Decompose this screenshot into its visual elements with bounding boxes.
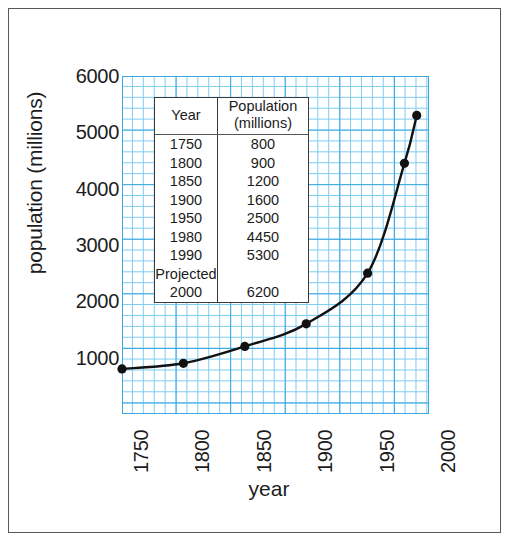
data-point-marker	[400, 159, 409, 168]
table-cell-year: 1850	[155, 172, 217, 191]
data-point-marker	[117, 364, 126, 373]
y-tick-label: 3000	[49, 234, 119, 257]
table-cell-year: 1900	[155, 191, 217, 210]
table-row: 18501200	[155, 172, 308, 191]
y-tick-label: 1000	[49, 346, 119, 369]
projected-label: Projected	[155, 265, 217, 284]
data-point-marker	[302, 319, 311, 328]
table-row-projected-label: Projected	[155, 265, 308, 284]
plot-area: Year Population (millions) 1750800180090…	[122, 76, 429, 414]
data-point-marker	[240, 342, 249, 351]
table-row: 19001600	[155, 191, 308, 210]
x-axis-tick-labels: 175018001850190019502000	[9, 415, 500, 485]
y-tick-label: 4000	[49, 177, 119, 200]
figure-frame: population (millions) 100020003000400050…	[8, 8, 501, 533]
x-tick-label: 1900	[314, 430, 337, 473]
table-cell-population: 6200	[217, 283, 308, 302]
table-cell-population: 1200	[217, 172, 308, 191]
table-cell-population: 5300	[217, 246, 308, 265]
y-axis-title: population (millions)	[23, 73, 47, 293]
data-point-marker	[179, 359, 188, 368]
x-tick-label: 1850	[253, 430, 276, 473]
x-tick-label: 1950	[376, 430, 399, 473]
table-row: 19804450	[155, 228, 308, 247]
table-cell-year: 1800	[155, 154, 217, 173]
table-header-population-line2: (millions)	[218, 115, 308, 132]
table-row: 19502500	[155, 209, 308, 228]
table-cell-year: 1950	[155, 209, 217, 228]
x-tick-label: 1750	[130, 430, 153, 473]
table-header-population: Population (millions)	[217, 98, 308, 134]
table-row: 1800900	[155, 154, 308, 173]
table-header-row: Year Population (millions)	[155, 98, 308, 134]
table-cell-population: 1600	[217, 191, 308, 210]
data-point-marker	[363, 269, 372, 278]
data-point-marker	[412, 111, 421, 120]
table-cell-year: 1990	[155, 246, 217, 265]
table-header-year: Year	[155, 98, 217, 134]
table-cell-population: 800	[217, 135, 308, 154]
table-header-population-line1: Population	[218, 98, 308, 115]
table-body: 1750800180090018501200190016001950250019…	[155, 135, 308, 265]
y-tick-label: 2000	[49, 290, 119, 313]
x-axis-title: year	[119, 477, 419, 501]
table-cell-year: 1750	[155, 135, 217, 154]
y-tick-label: 5000	[49, 121, 119, 144]
table-row: 19905300	[155, 246, 308, 265]
table-cell-population: 900	[217, 154, 308, 173]
table-cell-year: 1980	[155, 228, 217, 247]
table-row: 1750800	[155, 135, 308, 154]
table-cell-population: 2500	[217, 209, 308, 228]
table-row: 2000 6200	[155, 283, 308, 302]
x-tick-label: 2000	[437, 430, 460, 473]
data-table: Year Population (millions) 1750800180090…	[154, 97, 309, 303]
x-tick-label: 1800	[191, 430, 214, 473]
table-cell-year: 2000	[155, 283, 217, 302]
y-tick-label: 6000	[49, 65, 119, 88]
table-cell-population: 4450	[217, 228, 308, 247]
